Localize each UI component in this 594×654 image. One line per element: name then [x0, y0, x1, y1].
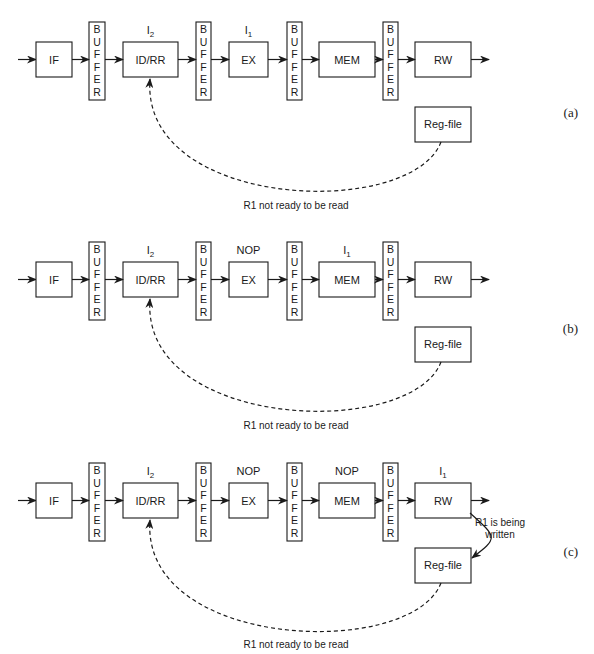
- stage-label: EX: [241, 54, 256, 66]
- stage-label: RW: [434, 495, 453, 507]
- stage-label: MEM: [334, 54, 360, 66]
- svg-text:F: F: [291, 268, 297, 280]
- if-stage: IF: [36, 42, 72, 77]
- svg-text:F: F: [94, 48, 100, 60]
- stage-label: IF: [49, 495, 59, 507]
- write-caption: written: [484, 529, 514, 540]
- ex-stage: EX: [229, 483, 268, 518]
- dependency-caption: R1 not ready to be read: [243, 639, 348, 650]
- svg-text:U: U: [200, 477, 208, 489]
- svg-text:F: F: [94, 489, 100, 501]
- svg-text:B: B: [387, 464, 394, 476]
- svg-text:U: U: [291, 256, 299, 268]
- stage-annotation: I1: [439, 465, 447, 480]
- svg-text:R: R: [200, 306, 208, 318]
- stage-label: RW: [434, 274, 453, 286]
- pipeline-panel-c: IFID/RRI2EXNOPMEMNOPRWI1BUFFERBUFFERBUFF…: [18, 463, 578, 650]
- svg-text:F: F: [200, 489, 206, 501]
- stage-label: IF: [49, 274, 59, 286]
- svg-text:F: F: [387, 489, 393, 501]
- stage-annotation: NOP: [237, 465, 261, 477]
- stage-annotation: I1: [343, 244, 351, 259]
- svg-text:R: R: [291, 527, 299, 539]
- rw-stage: RW: [415, 262, 471, 297]
- pipeline-buffer: BUFFER: [196, 242, 211, 320]
- id-rr-stage: ID/RR: [123, 483, 178, 518]
- svg-text:F: F: [94, 502, 100, 514]
- svg-text:F: F: [200, 48, 206, 60]
- svg-text:U: U: [291, 477, 299, 489]
- svg-text:B: B: [291, 464, 298, 476]
- svg-text:F: F: [291, 489, 297, 501]
- stage-annotation: NOP: [237, 244, 261, 256]
- reg-file: Reg-file: [415, 107, 471, 142]
- pipeline-buffer: BUFFER: [287, 22, 302, 100]
- svg-text:R: R: [200, 86, 208, 98]
- svg-text:B: B: [200, 243, 207, 255]
- svg-text:E: E: [93, 293, 100, 305]
- svg-text:F: F: [291, 502, 297, 514]
- svg-text:F: F: [291, 48, 297, 60]
- rw-stage: RW: [415, 483, 471, 518]
- id-rr-stage: ID/RR: [123, 42, 178, 77]
- svg-text:R: R: [387, 306, 395, 318]
- svg-text:E: E: [387, 73, 394, 85]
- svg-text:B: B: [200, 464, 207, 476]
- pipeline-buffer: BUFFER: [287, 242, 302, 320]
- svg-text:B: B: [291, 23, 298, 35]
- svg-text:U: U: [291, 36, 299, 48]
- pipeline-buffer: BUFFER: [196, 463, 211, 541]
- svg-text:E: E: [200, 73, 207, 85]
- mem-stage: MEM: [319, 483, 375, 518]
- panel-label: (b): [563, 321, 578, 336]
- stage-label: MEM: [334, 495, 360, 507]
- svg-text:E: E: [291, 514, 298, 526]
- stage-annotation: I2: [147, 24, 155, 39]
- stage-annotation: I2: [147, 465, 155, 480]
- svg-text:E: E: [200, 293, 207, 305]
- svg-text:R: R: [200, 527, 208, 539]
- svg-text:R: R: [387, 86, 395, 98]
- svg-text:F: F: [291, 281, 297, 293]
- svg-text:B: B: [387, 243, 394, 255]
- stage-annotation: I2: [147, 244, 155, 259]
- ex-stage: EX: [229, 262, 268, 297]
- svg-text:F: F: [387, 268, 393, 280]
- svg-text:B: B: [93, 23, 100, 35]
- svg-text:E: E: [200, 514, 207, 526]
- pipeline-buffer: BUFFER: [89, 22, 105, 100]
- svg-text:E: E: [387, 514, 394, 526]
- svg-text:F: F: [200, 61, 206, 73]
- svg-text:F: F: [387, 502, 393, 514]
- svg-text:R: R: [387, 527, 395, 539]
- svg-text:F: F: [94, 281, 100, 293]
- svg-text:U: U: [387, 256, 395, 268]
- stage-label: ID/RR: [136, 274, 166, 286]
- svg-text:F: F: [200, 268, 206, 280]
- svg-text:B: B: [387, 23, 394, 35]
- svg-text:F: F: [94, 268, 100, 280]
- svg-text:E: E: [291, 293, 298, 305]
- pipeline-panel-b: IFID/RRI2EXNOPMEMI1RWBUFFERBUFFERBUFFERB…: [18, 242, 578, 431]
- svg-text:E: E: [387, 293, 394, 305]
- svg-text:R: R: [93, 86, 101, 98]
- mem-stage: MEM: [319, 262, 375, 297]
- ex-stage: EX: [229, 42, 268, 77]
- if-stage: IF: [36, 262, 72, 297]
- pipeline-buffer: BUFFER: [89, 463, 105, 541]
- svg-text:U: U: [200, 256, 208, 268]
- svg-text:E: E: [93, 73, 100, 85]
- stage-label: ID/RR: [136, 54, 166, 66]
- mem-stage: MEM: [319, 42, 375, 77]
- svg-text:F: F: [387, 281, 393, 293]
- rw-stage: RW: [415, 42, 471, 77]
- svg-text:U: U: [200, 36, 208, 48]
- svg-text:B: B: [291, 243, 298, 255]
- svg-text:E: E: [291, 73, 298, 85]
- id-rr-stage: ID/RR: [123, 262, 178, 297]
- svg-text:F: F: [291, 61, 297, 73]
- svg-text:F: F: [200, 281, 206, 293]
- if-stage: IF: [36, 483, 72, 518]
- pipeline-buffer: BUFFER: [287, 463, 302, 541]
- stage-label: ID/RR: [136, 495, 166, 507]
